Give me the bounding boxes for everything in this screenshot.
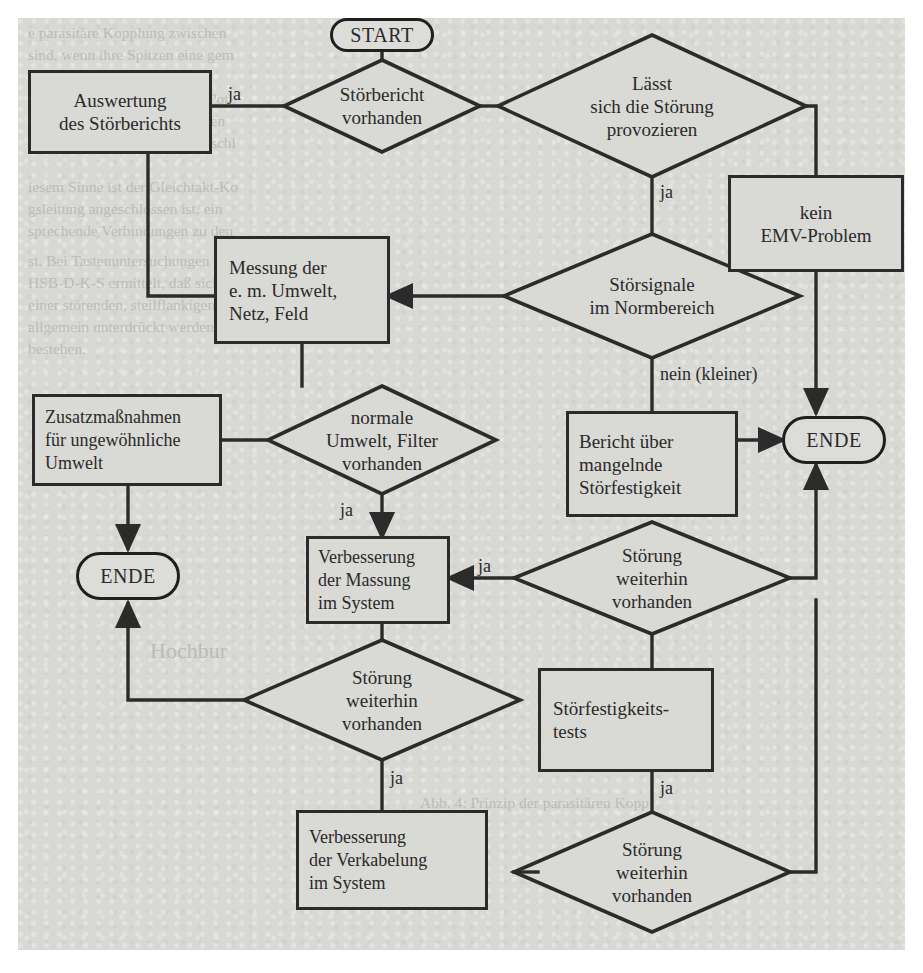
text-line: Bericht über — [579, 430, 729, 453]
process-auswertung[interactable]: Auswertung des Störberichts — [28, 70, 212, 154]
text-line: der Verkabelung — [309, 849, 479, 872]
process-bericht-mangelnde-stoerfestigkeit[interactable]: Bericht über mangelnde Störfestigkeit — [566, 411, 738, 517]
text-line: mangelnde — [579, 453, 729, 476]
text-line: EMV-Problem — [760, 224, 871, 247]
edge-label-filter-ja: ja — [340, 500, 353, 521]
text-line: Störfestigkeit — [579, 476, 729, 499]
process-messung[interactable]: Messung der e. m. Umwelt, Netz, Feld — [214, 236, 390, 344]
text-line: der Massung — [318, 569, 441, 592]
edge-label-provozieren-ja: ja — [660, 182, 673, 203]
process-verbesserung-verkabelung[interactable]: Verbesserung der Verkabelung im System — [296, 810, 488, 910]
text-line: e. m. Umwelt, — [229, 279, 381, 302]
text-line: Verbesserung — [318, 546, 441, 569]
edge-label-tests-ja: ja — [660, 778, 673, 799]
text-line: des Störberichts — [59, 112, 181, 135]
process-verbesserung-massung-label: Verbesserung der Massung im System — [309, 546, 447, 615]
text-line: Umwelt — [45, 452, 213, 475]
edge-label-weiter2-ja: ja — [390, 768, 403, 789]
text-line: tests — [553, 720, 705, 743]
terminator-ende-left-label: ENDE — [100, 565, 156, 588]
text-line: kein — [760, 201, 871, 224]
terminator-start[interactable]: START — [330, 18, 434, 52]
terminator-start-label: START — [350, 24, 414, 47]
process-zusatzmassnahmen[interactable]: Zusatzmaßnahmen für ungewöhnliche Umwelt — [32, 394, 222, 486]
edge-label-normbereich-nein: nein (kleiner) — [660, 364, 757, 385]
process-kein-emv-problem[interactable]: kein EMV-Problem — [728, 175, 904, 272]
process-verbesserung-massung[interactable]: Verbesserung der Massung im System — [306, 536, 450, 624]
text-line: Messung der — [229, 256, 381, 279]
text-line: Verbesserung — [309, 826, 479, 849]
terminator-ende-left[interactable]: ENDE — [76, 552, 180, 600]
text-line: Störfestigkeits- — [553, 697, 705, 720]
terminator-ende-right[interactable]: ENDE — [782, 416, 886, 464]
process-bericht-label: Bericht über mangelnde Störfestigkeit — [569, 430, 735, 499]
text-line: Zusatzmaßnahmen — [45, 406, 213, 429]
terminator-ende-right-label: ENDE — [806, 429, 862, 452]
process-kein-emv-problem-label: kein EMV-Problem — [754, 201, 877, 247]
text-line: Netz, Feld — [229, 302, 381, 325]
text-line: für ungewöhnliche — [45, 429, 213, 452]
diagram-page: e parasitäre Kopplung zwischen sind, wen… — [0, 0, 923, 973]
process-stoerfestigkeitstests[interactable]: Störfestigkeits- tests — [538, 668, 714, 772]
process-messung-label: Messung der e. m. Umwelt, Netz, Feld — [217, 256, 387, 325]
text-line: im System — [318, 592, 441, 615]
process-auswertung-label: Auswertung des Störberichts — [53, 89, 187, 135]
process-verbesserung-verkabelung-label: Verbesserung der Verkabelung im System — [299, 826, 485, 895]
edge-label-weiter1-ja: ja — [478, 556, 491, 577]
text-line: im System — [309, 872, 479, 895]
process-stoerfestigkeitstests-label: Störfestigkeits- tests — [541, 697, 711, 743]
text-line: Auswertung — [59, 89, 181, 112]
process-zusatzmassnahmen-label: Zusatzmaßnahmen für ungewöhnliche Umwelt — [35, 406, 219, 475]
edge-label-stoerbericht-ja: ja — [228, 84, 241, 105]
